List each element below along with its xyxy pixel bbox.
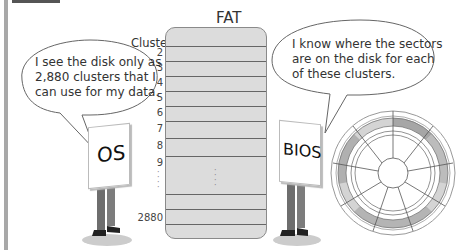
bios-person-legs (272, 180, 332, 250)
bios-speech: I know where the sectors are on the disk… (292, 37, 443, 82)
os-speech: I see the disk only as 2,880 clusters th… (35, 55, 161, 100)
disk-platter-diagram (328, 108, 458, 238)
bios-sign: BIOS (279, 120, 321, 186)
os-person-legs (80, 180, 140, 250)
os-sign: OS (88, 123, 130, 189)
